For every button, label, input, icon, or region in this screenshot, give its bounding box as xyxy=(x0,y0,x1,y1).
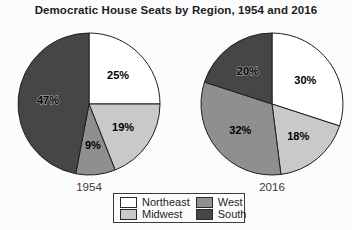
chart-title: Democratic House Seats by Region, 1954 a… xyxy=(0,4,352,16)
legend-swatch-midwest xyxy=(120,209,137,220)
legend-label-south: South xyxy=(218,209,247,220)
pie-2016: 30%18%32%20% xyxy=(197,29,347,179)
legend-label-northeast: Northeast xyxy=(142,197,190,208)
legend-label-midwest: Midwest xyxy=(142,209,182,220)
pie-label-1954-west: 9% xyxy=(85,139,101,151)
year-label-1954: 1954 xyxy=(14,181,164,193)
pie-label-2016-northeast: 30% xyxy=(294,74,316,86)
pie-chart-figure: Democratic House Seats by Region, 1954 a… xyxy=(0,0,352,230)
pie-label-1954-midwest: 19% xyxy=(112,121,134,133)
legend-swatch-west xyxy=(196,197,213,208)
pie-label-2016-south: 20% xyxy=(237,65,259,77)
year-label-2016: 2016 xyxy=(197,181,347,193)
legend-swatch-south xyxy=(196,209,213,220)
pie-1954: 25%19%9%47% xyxy=(14,29,164,179)
pie-label-2016-midwest: 18% xyxy=(287,130,309,142)
pie-label-1954-northeast: 25% xyxy=(107,69,129,81)
legend-item-midwest: Midwest xyxy=(120,209,190,220)
legend: Northeast Midwest West South xyxy=(113,193,245,223)
pie-label-1954-south: 47% xyxy=(37,94,59,106)
pie-label-2016-west: 32% xyxy=(229,124,251,136)
legend-item-northeast: Northeast xyxy=(120,197,190,208)
legend-swatch-northeast xyxy=(120,197,137,208)
legend-item-south: South xyxy=(196,209,247,220)
legend-item-west: West xyxy=(196,197,247,208)
legend-label-west: West xyxy=(218,197,243,208)
